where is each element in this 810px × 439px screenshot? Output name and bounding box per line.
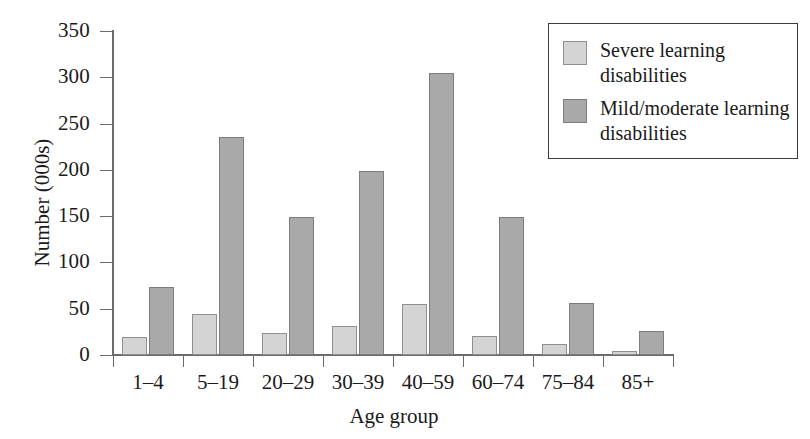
y-tick-label: 350 [32, 20, 90, 41]
x-tick [253, 356, 254, 367]
legend-item-severe: Severe learning disabilities [563, 38, 790, 88]
y-tick [100, 124, 112, 125]
y-tick [100, 262, 112, 263]
y-tick-label: 100 [32, 251, 90, 272]
x-tick [533, 356, 534, 367]
legend-swatch-severe [563, 41, 587, 65]
bar [612, 351, 637, 355]
y-tick [100, 31, 112, 32]
x-tick [183, 356, 184, 367]
y-tick-label: 0 [32, 344, 90, 365]
bar [639, 331, 664, 355]
legend: Severe learning disabilities Mild/modera… [548, 23, 798, 159]
x-tick [113, 356, 114, 367]
legend-label-severe: Severe learning disabilities [600, 38, 790, 88]
y-tick-label: 200 [32, 159, 90, 180]
y-tick [100, 170, 112, 171]
y-tick-label: 300 [32, 66, 90, 87]
x-axis-title-wrap: Age group [0, 404, 810, 429]
chart-figure: Number (000s) 050100150200250300350 1–45… [0, 0, 810, 439]
x-axis-title: Age group [349, 404, 438, 429]
legend-label-mild-moderate: Mild/moderate learning disabilities [600, 96, 790, 146]
y-tick-label: 150 [32, 205, 90, 226]
x-tick [463, 356, 464, 367]
x-tick [673, 356, 674, 367]
legend-item-mild-moderate: Mild/moderate learning disabilities [563, 96, 790, 146]
y-tick-label: 250 [32, 113, 90, 134]
x-tick [323, 356, 324, 367]
y-tick [100, 77, 112, 78]
x-tick [393, 356, 394, 367]
legend-swatch-mild-moderate [563, 99, 587, 123]
x-tick [603, 356, 604, 367]
y-tick-label: 50 [32, 298, 90, 319]
y-tick [100, 216, 112, 217]
x-tick-label: 85+ [593, 370, 683, 395]
y-tick [100, 309, 112, 310]
y-tick [100, 355, 112, 356]
